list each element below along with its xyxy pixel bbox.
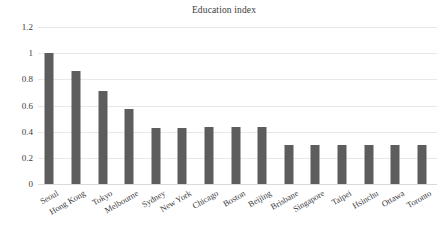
y-tick-label: 1 (29, 48, 34, 58)
bar[interactable] (258, 127, 267, 184)
x-tick-label: Hsinchu (350, 188, 380, 211)
y-axis: 00.20.40.60.811.2 (0, 27, 33, 184)
y-tick-label: 0 (29, 179, 34, 189)
x-tick-label: Beijing (246, 188, 273, 209)
x-tick-label: Taipei (330, 188, 353, 207)
y-tick-label: 0.4 (22, 127, 33, 137)
bar[interactable] (417, 145, 426, 184)
bar[interactable] (204, 127, 213, 184)
bar[interactable] (337, 145, 346, 184)
x-tick-label: Chicago (190, 188, 220, 211)
y-tick-label: 0.2 (22, 153, 33, 163)
bar[interactable] (125, 109, 134, 184)
bar[interactable] (231, 127, 240, 184)
bar[interactable] (98, 91, 107, 184)
x-axis: SeoulHong KongTokyoMelbourneSydneyNew Yo… (38, 184, 437, 247)
bar[interactable] (71, 71, 80, 184)
bar[interactable] (284, 145, 293, 184)
y-tick-label: 0.6 (22, 101, 33, 111)
chart-title: Education index (0, 4, 448, 16)
y-tick-label: 0.8 (22, 74, 33, 84)
education-index-bar-chart: Education index 00.20.40.60.811.2 SeoulH… (0, 0, 448, 247)
bar[interactable] (45, 53, 54, 184)
x-tick-label: Toronto (404, 188, 432, 210)
bar[interactable] (178, 128, 187, 184)
x-tick-label: Ottawa (380, 188, 406, 209)
bars-layer (38, 27, 437, 184)
bar[interactable] (364, 145, 373, 184)
bar[interactable] (391, 145, 400, 184)
y-tick-label: 1.2 (22, 22, 33, 32)
x-tick-label: Boston (221, 188, 247, 209)
bar[interactable] (311, 145, 320, 184)
bar[interactable] (151, 128, 160, 184)
